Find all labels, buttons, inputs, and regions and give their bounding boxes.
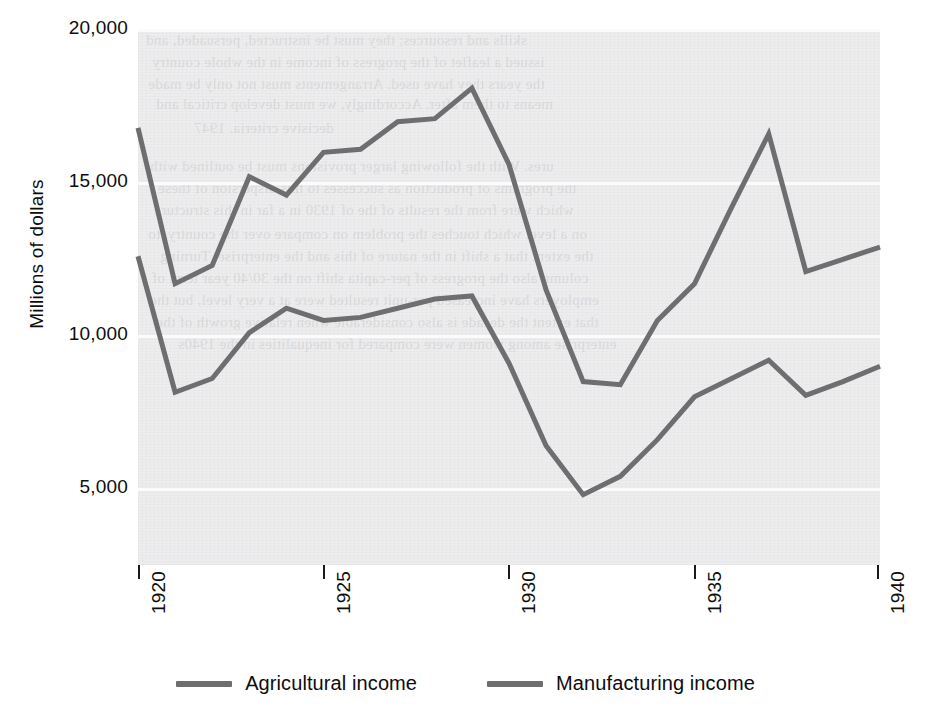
- x-tick-mark: [138, 565, 140, 579]
- y-tick-label: 20,000: [8, 17, 128, 39]
- series-lines: [138, 30, 880, 565]
- y-axis: 5,00010,00015,00020,000: [0, 30, 128, 565]
- chart-figure: skills and resources; they must be instr…: [0, 0, 931, 723]
- y-axis-title: Millions of dollars: [26, 104, 48, 404]
- x-tick-label: 1930: [518, 571, 540, 661]
- x-tick-mark: [877, 565, 879, 579]
- legend-label: Agricultural income: [245, 672, 417, 695]
- x-tick-mark: [694, 565, 696, 579]
- x-tick-label: 1940: [887, 571, 909, 661]
- y-tick-label: 5,000: [8, 476, 128, 498]
- legend-item-agricultural-income[interactable]: Agricultural income: [176, 672, 417, 695]
- legend-label: Manufacturing income: [556, 672, 755, 695]
- x-tick-label: 1935: [704, 571, 726, 661]
- legend-item-manufacturing-income[interactable]: Manufacturing income: [487, 672, 755, 695]
- x-tick-label: 1925: [333, 571, 355, 661]
- series-line-agricultural-income: [138, 256, 880, 494]
- chart-legend: Agricultural incomeManufacturing income: [0, 672, 931, 695]
- x-axis: 19201925193019351940: [138, 565, 880, 675]
- x-tick-label: 1920: [148, 571, 170, 661]
- legend-swatch: [176, 681, 232, 687]
- x-tick-mark: [508, 565, 510, 579]
- x-tick-mark: [323, 565, 325, 579]
- legend-swatch: [487, 681, 543, 687]
- series-line-manufacturing-income: [138, 88, 880, 385]
- plot-area: skills and resources; they must be instr…: [138, 30, 880, 565]
